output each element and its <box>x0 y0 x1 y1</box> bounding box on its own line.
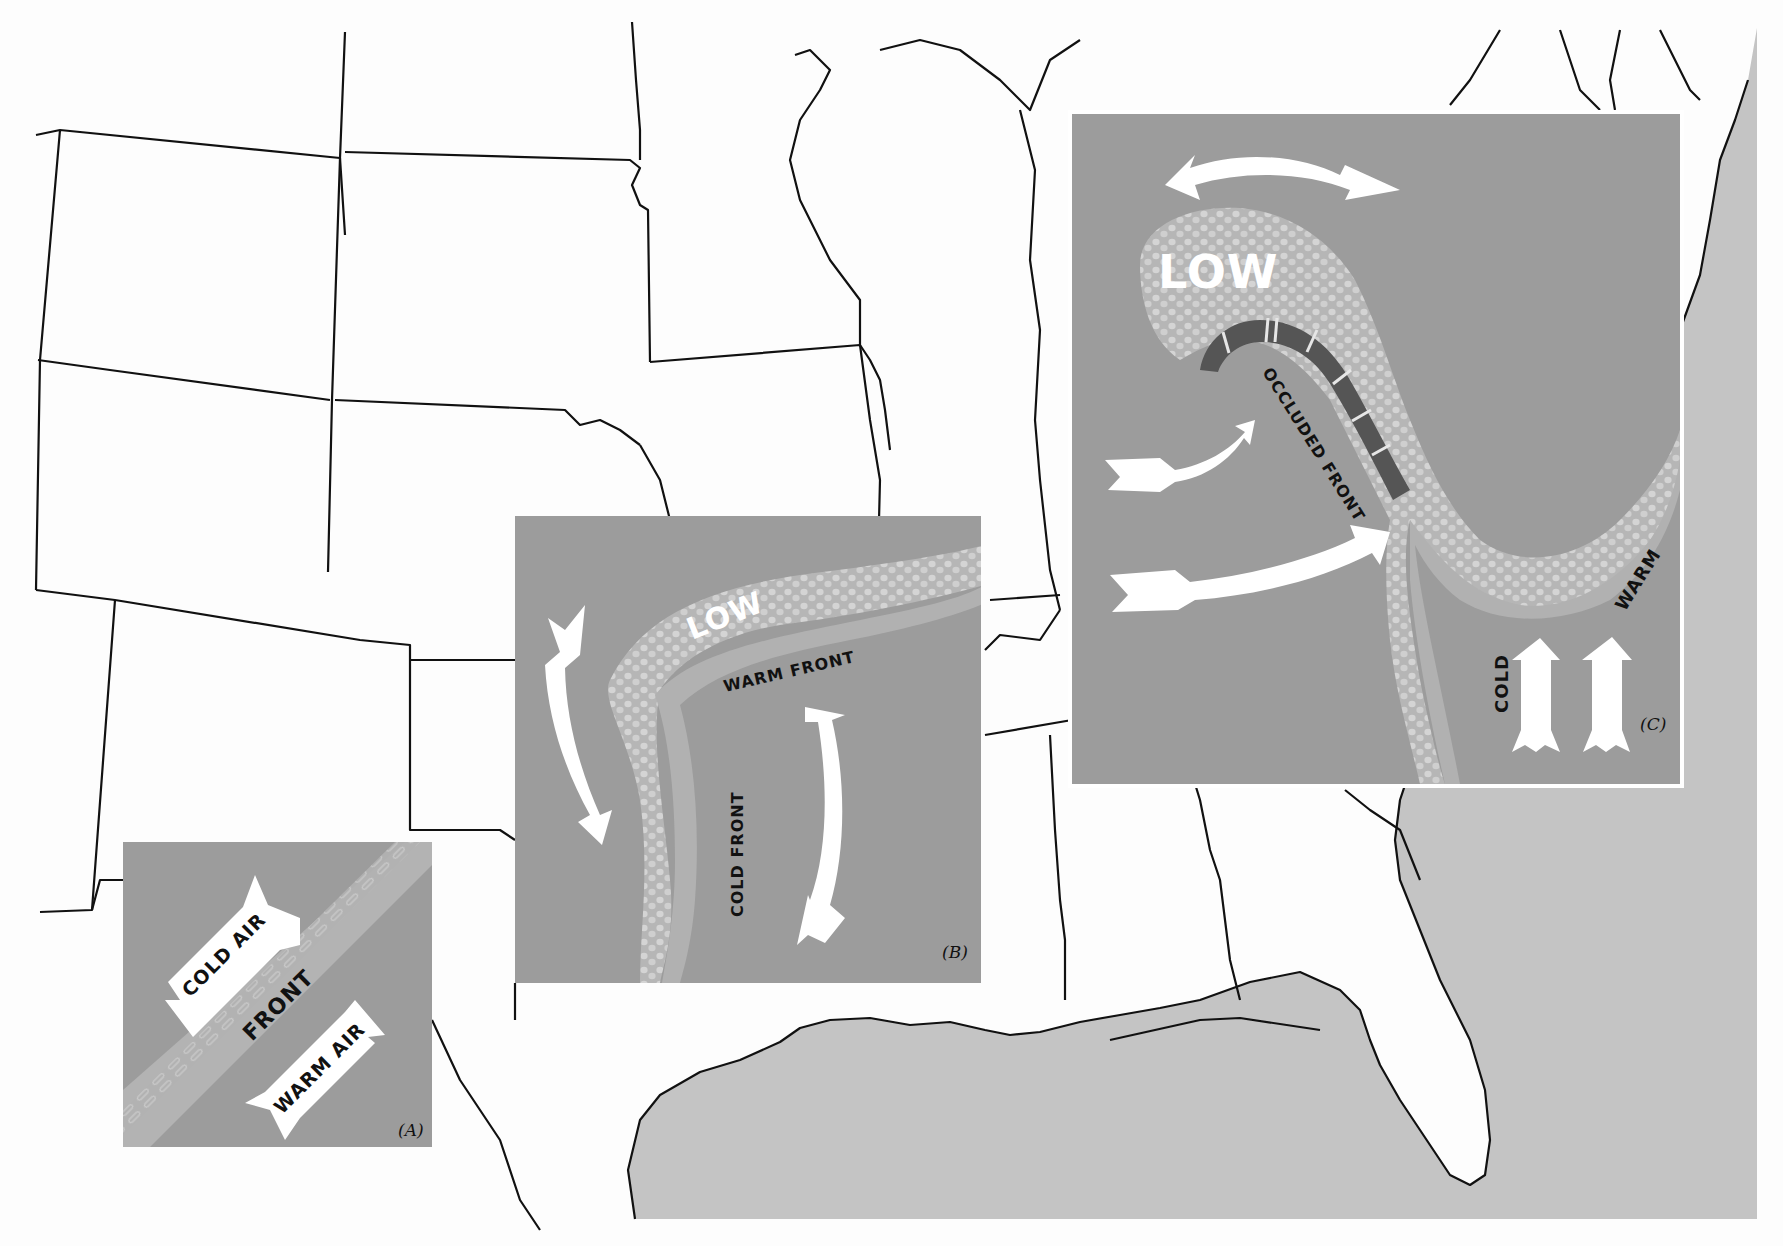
low-label-c: LOW <box>1158 245 1279 299</box>
weather-map-figure: COLD AIR FRONT WARM AIR (A) LOW WARM FRO… <box>0 0 1783 1246</box>
panel-a: COLD AIR FRONT WARM AIR (A) <box>123 842 432 1147</box>
cold-label: COLD <box>1491 654 1512 713</box>
panel-c: LOW OCCLUDED FRONT COLD WARM (C) <box>1068 110 1684 788</box>
cold-front-label: COLD FRONT <box>728 791 747 917</box>
panel-c-caption: (C) <box>1640 714 1666 734</box>
panel-b: LOW WARM FRONT COLD FRONT (B) <box>515 516 985 983</box>
panel-b-caption: (B) <box>942 942 968 962</box>
panel-a-caption: (A) <box>398 1120 424 1140</box>
